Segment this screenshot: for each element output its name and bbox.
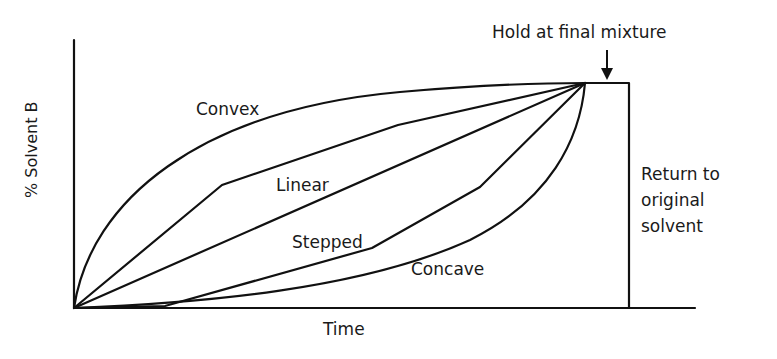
label-concave: Concave xyxy=(411,260,484,280)
label-linear: Linear xyxy=(276,176,329,196)
label-return-1: Return to xyxy=(641,165,720,185)
x-axis-label: Time xyxy=(323,320,365,340)
label-convex: Convex xyxy=(196,100,259,120)
label-hold: Hold at final mixture xyxy=(492,23,666,43)
hold-arrow-icon xyxy=(601,50,613,80)
label-return-2: original xyxy=(641,191,705,211)
linear-line xyxy=(74,83,585,308)
label-stepped: Stepped xyxy=(292,233,363,253)
y-axis-label: % Solvent B xyxy=(22,102,41,198)
label-return-3: solvent xyxy=(641,217,703,237)
hold-and-return-line xyxy=(585,83,629,308)
